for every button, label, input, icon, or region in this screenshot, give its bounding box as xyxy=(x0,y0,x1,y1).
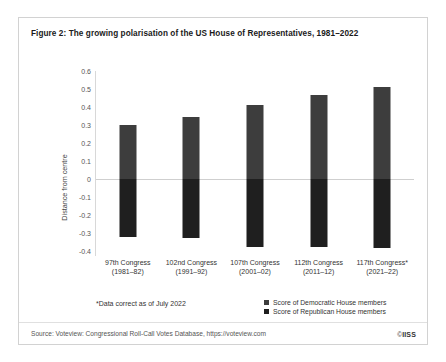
copyright-iiss: ©IISS xyxy=(397,331,416,338)
x-tick-label-line: (1991–92) xyxy=(160,267,224,276)
x-tick-label-line: 112th Congress xyxy=(287,258,351,267)
y-tick-label: 0.2 xyxy=(65,140,91,147)
source-text: Source: Voteview: Congressional Roll-Cal… xyxy=(31,330,266,337)
y-tick-label: -0.3 xyxy=(65,230,91,237)
bar-republican[interactable] xyxy=(183,179,200,238)
copyright-owner: IISS xyxy=(402,331,416,338)
y-tick-label: 0 xyxy=(65,176,91,183)
x-tick-label: 102nd Congress(1991–92) xyxy=(160,258,224,277)
y-tick-label: 0.3 xyxy=(65,122,91,129)
bar-democratic[interactable] xyxy=(310,95,327,179)
x-tick-label-line: (1981–82) xyxy=(96,267,160,276)
y-tick-label: -0.1 xyxy=(65,194,91,201)
bar-republican[interactable] xyxy=(374,179,391,248)
bar-group[interactable] xyxy=(96,71,160,251)
bar-democratic[interactable] xyxy=(246,105,263,179)
legend-label: Score of Republican House members xyxy=(273,308,386,315)
y-tick-label: -0.4 xyxy=(65,248,91,255)
x-tick-label: 112th Congress(2011–12) xyxy=(287,258,351,277)
x-tick-label-line: 97th Congress xyxy=(96,258,160,267)
legend-item[interactable]: Score of Democratic House members xyxy=(264,299,424,306)
source-divider xyxy=(19,322,427,323)
y-tick-label: 0.1 xyxy=(65,158,91,165)
bar-group[interactable] xyxy=(287,71,351,251)
x-tick-label-line: (2001–02) xyxy=(223,267,287,276)
y-axis-tick-labels: 0.60.50.40.30.20.10-0.1-0.2-0.3-0.4 xyxy=(63,71,91,251)
bar-democratic[interactable] xyxy=(183,117,200,179)
bar-group[interactable] xyxy=(350,71,414,251)
y-axis-title-container: Distance from centre xyxy=(49,78,61,238)
x-axis-tick-labels: 97th Congress(1981–82)102nd Congress(199… xyxy=(96,258,414,284)
x-tick-label-line: (2021–22) xyxy=(350,267,414,276)
gridline xyxy=(96,251,414,252)
bar-group[interactable] xyxy=(160,71,224,251)
y-tick-label: 0.5 xyxy=(65,86,91,93)
y-tick-label: -0.2 xyxy=(65,212,91,219)
bar-republican[interactable] xyxy=(246,179,263,247)
legend-swatch-icon xyxy=(264,300,269,305)
x-tick-label-line: (2011–12) xyxy=(287,267,351,276)
chart-footnote: *Data correct as of July 2022 xyxy=(96,300,186,307)
x-tick-label: 97th Congress(1981–82) xyxy=(96,258,160,277)
figure-card: Figure 2: The growing polarisation of th… xyxy=(18,17,428,345)
bar-democratic[interactable] xyxy=(119,125,136,179)
legend-label: Score of Democratic House members xyxy=(273,299,386,306)
x-tick-label-line: 107th Congress xyxy=(223,258,287,267)
page-title: Figure 2: The growing polarisation of th… xyxy=(31,29,419,38)
bar-democratic[interactable] xyxy=(374,87,391,179)
chart-legend: Score of Democratic House membersScore o… xyxy=(264,299,424,317)
x-tick-label-line: 102nd Congress xyxy=(160,258,224,267)
legend-item[interactable]: Score of Republican House members xyxy=(264,308,424,315)
y-tick-label: 0.4 xyxy=(65,104,91,111)
bar-group[interactable] xyxy=(223,71,287,251)
plot-area xyxy=(96,71,414,251)
bar-republican[interactable] xyxy=(310,179,327,247)
x-tick-label: 117th Congress*(2021–22) xyxy=(350,258,414,277)
bar-republican[interactable] xyxy=(119,179,136,237)
x-tick-label: 107th Congress(2001–02) xyxy=(223,258,287,277)
y-tick-label: 0.6 xyxy=(65,68,91,75)
x-tick-label-line: 117th Congress* xyxy=(350,258,414,267)
legend-swatch-icon xyxy=(264,309,269,314)
